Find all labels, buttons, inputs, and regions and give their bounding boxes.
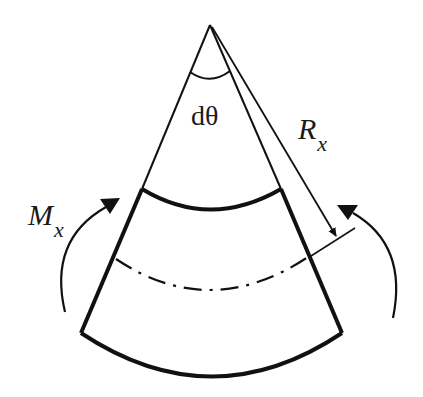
right-edge [281,189,342,333]
angle-arc [190,71,230,79]
arrowhead-left [100,198,120,214]
moment-arrow-left [61,198,120,312]
curved-beam-diagram: dθ Rx Mx [0,0,423,397]
inner-arc [142,189,281,210]
angle-label: dθ [191,100,218,131]
moment-label: Mx [27,198,64,242]
beam-element [81,189,342,377]
outer-arc [81,333,342,377]
radius-label: Rx [297,112,327,156]
neutral-axis [116,257,308,290]
arrowhead-right [337,205,358,220]
moment-arrow-right [337,205,396,318]
